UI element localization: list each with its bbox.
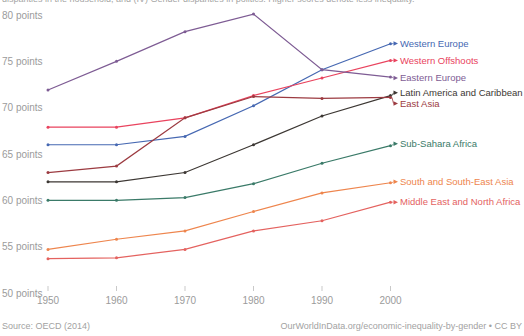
- data-point-western-europe[interactable]: [252, 104, 255, 107]
- data-point-south-and-south-east-asia[interactable]: [184, 229, 187, 232]
- data-point-south-and-south-east-asia[interactable]: [115, 238, 118, 241]
- data-point-latin-america-and-caribbean[interactable]: [47, 180, 50, 183]
- data-point-latin-america-and-caribbean[interactable]: [115, 180, 118, 183]
- series-line-eastern-europe[interactable]: [48, 14, 391, 90]
- series-line-middle-east-and-north-africa[interactable]: [48, 202, 391, 259]
- legend-connector-eastern-europe: [392, 77, 394, 78]
- data-point-western-europe[interactable]: [115, 143, 118, 146]
- data-point-latin-america-and-caribbean[interactable]: [252, 143, 255, 146]
- y-axis-tick-label: 60 points: [2, 195, 43, 206]
- data-point-east-asia[interactable]: [321, 97, 324, 100]
- y-axis-tick-label: 80 points: [2, 10, 43, 21]
- data-point-sub-sahara-africa[interactable]: [115, 199, 118, 202]
- legend-connector-sub-sahara-africa: [392, 144, 394, 146]
- x-axis-tick-label: 1980: [242, 295, 265, 306]
- legend-arrow-icon: [394, 101, 399, 105]
- legend-connector-latin-america-and-caribbean: [392, 93, 394, 96]
- data-point-east-asia[interactable]: [184, 116, 187, 119]
- data-point-eastern-europe[interactable]: [389, 76, 392, 79]
- legend-arrow-icon: [394, 41, 399, 45]
- legend-connector-east-asia: [392, 97, 394, 103]
- legend-arrow-icon: [394, 58, 399, 62]
- legend-arrow-icon: [394, 200, 399, 204]
- data-point-middle-east-and-north-africa[interactable]: [47, 257, 50, 260]
- legend-label-sub-sahara-africa[interactable]: Sub-Sahara Africa: [400, 138, 478, 149]
- legend-label-eastern-europe[interactable]: Eastern Europe: [400, 72, 466, 83]
- data-point-western-offshoots[interactable]: [321, 77, 324, 80]
- data-point-sub-sahara-africa[interactable]: [252, 182, 255, 185]
- data-point-south-and-south-east-asia[interactable]: [47, 248, 50, 251]
- legend-label-middle-east-and-north-africa[interactable]: Middle East and North Africa: [400, 196, 521, 207]
- data-point-western-offshoots[interactable]: [389, 59, 392, 62]
- data-point-east-asia[interactable]: [389, 96, 392, 99]
- data-point-sub-sahara-africa[interactable]: [184, 196, 187, 199]
- data-point-eastern-europe[interactable]: [184, 30, 187, 33]
- x-axis-tick-label: 1950: [37, 295, 60, 306]
- y-axis-tick-label: 75 points: [2, 56, 43, 67]
- data-point-middle-east-and-north-africa[interactable]: [252, 229, 255, 232]
- legend-label-latin-america-and-caribbean[interactable]: Latin America and Caribbean: [400, 87, 523, 98]
- series-line-western-offshoots[interactable]: [48, 60, 391, 127]
- x-axis-tick-label: 1970: [174, 295, 197, 306]
- series-line-western-europe[interactable]: [48, 44, 391, 145]
- data-point-western-europe[interactable]: [47, 143, 50, 146]
- y-axis-tick-label: 70 points: [2, 102, 43, 113]
- data-point-east-asia[interactable]: [115, 165, 118, 168]
- legend-label-western-europe[interactable]: Western Europe: [400, 38, 468, 49]
- series-line-east-asia[interactable]: [48, 97, 391, 173]
- y-axis-tick-label: 55 points: [2, 241, 43, 252]
- x-axis-tick-label: 1960: [105, 295, 128, 306]
- y-axis-tick-label: 65 points: [2, 149, 43, 160]
- data-point-latin-america-and-caribbean[interactable]: [321, 115, 324, 118]
- legend-label-east-asia[interactable]: East Asia: [400, 98, 440, 109]
- data-point-eastern-europe[interactable]: [252, 13, 255, 16]
- data-point-western-europe[interactable]: [389, 42, 392, 45]
- data-point-western-offshoots[interactable]: [47, 126, 50, 129]
- gender-equality-line-chart: 80 points75 points70 points65 points60 p…: [0, 0, 524, 336]
- data-point-south-and-south-east-asia[interactable]: [389, 181, 392, 184]
- x-axis-tick-label: 1990: [311, 295, 334, 306]
- legend-connector-south-and-south-east-asia: [392, 182, 394, 183]
- legend-arrow-icon: [394, 142, 399, 146]
- data-point-eastern-europe[interactable]: [47, 89, 50, 92]
- data-point-sub-sahara-africa[interactable]: [389, 144, 392, 147]
- data-point-middle-east-and-north-africa[interactable]: [389, 201, 392, 204]
- data-point-middle-east-and-north-africa[interactable]: [184, 248, 187, 251]
- legend-arrow-icon: [394, 91, 399, 95]
- data-point-eastern-europe[interactable]: [115, 60, 118, 63]
- legend-arrow-icon: [394, 76, 399, 80]
- data-point-east-asia[interactable]: [47, 171, 50, 174]
- data-point-east-asia[interactable]: [252, 95, 255, 98]
- data-point-western-offshoots[interactable]: [115, 126, 118, 129]
- data-point-south-and-south-east-asia[interactable]: [321, 191, 324, 194]
- data-point-sub-sahara-africa[interactable]: [47, 199, 50, 202]
- series-line-latin-america-and-caribbean[interactable]: [48, 96, 391, 182]
- data-point-middle-east-and-north-africa[interactable]: [115, 256, 118, 259]
- data-point-sub-sahara-africa[interactable]: [321, 162, 324, 165]
- owid-credit-link[interactable]: OurWorldInData.org/economic-inequality-b…: [280, 321, 522, 331]
- series-line-sub-sahara-africa[interactable]: [48, 146, 391, 201]
- data-point-middle-east-and-north-africa[interactable]: [321, 219, 324, 222]
- data-point-south-and-south-east-asia[interactable]: [252, 210, 255, 213]
- legend-label-western-offshoots[interactable]: Western Offshoots: [400, 55, 479, 66]
- data-point-latin-america-and-caribbean[interactable]: [184, 171, 187, 174]
- data-point-western-europe[interactable]: [184, 135, 187, 138]
- chart-canvas: disparities in the household, and (IV) G…: [0, 0, 524, 336]
- source-note: Source: OECD (2014): [2, 321, 90, 331]
- legend-arrow-icon: [394, 180, 399, 184]
- data-point-eastern-europe[interactable]: [321, 68, 324, 71]
- x-axis-tick-label: 2000: [379, 295, 402, 306]
- legend-label-south-and-south-east-asia[interactable]: South and South-East Asia: [400, 176, 514, 187]
